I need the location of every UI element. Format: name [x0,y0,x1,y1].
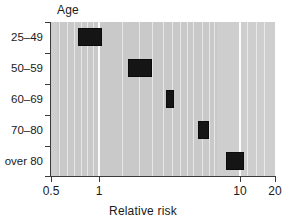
y-tick-label-50-59: 50–59 [0,62,43,74]
x-tick-label-10: 10 [220,184,260,198]
risk-box-25-49 [78,28,102,46]
x-tick-0point5 [51,176,52,182]
x-tick-label-20: 20 [255,184,289,198]
y-tick [45,22,51,23]
x-tick-10 [240,176,241,182]
risk-box-50-59 [128,59,152,77]
y-tick-label-over-80: over 80 [0,155,43,167]
y-tick [45,53,51,54]
gridline-minor [193,22,194,176]
gridline-minor [214,22,215,176]
x-tick-label-1: 1 [79,184,119,198]
y-axis-line [50,22,51,177]
x-axis-title: Relative risk [83,204,203,218]
risk-box-over-80 [226,152,244,170]
x-tick-1 [99,176,100,182]
gridline-minor [180,22,181,176]
relative-risk-by-age-chart: Age [0,0,289,224]
gridline-minor [139,22,140,176]
gridline-minor [264,22,265,176]
gridline-minor [122,22,123,176]
gridline-minor [59,22,60,176]
y-axis-title: Age [57,3,79,17]
panel-shade-band [51,22,57,176]
y-tick [45,84,51,85]
gridline-minor [256,22,257,176]
gridline-minor [247,22,248,176]
risk-box-60-69 [166,90,175,108]
x-tick-label-0point5: 0.5 [31,184,71,198]
gridline-minor [67,22,68,176]
risk-box-70-80 [198,121,209,139]
y-tick-label-60-69: 60–69 [0,93,43,105]
x-tick-20 [275,176,276,182]
y-tick-label-70-80: 70–80 [0,124,43,136]
gridline-minor [74,22,75,176]
gridline-minor [187,22,188,176]
gridline-minor [209,22,210,176]
gridline-minor [202,22,203,176]
y-tick [45,115,51,116]
y-tick-label-25-49: 25–49 [0,31,43,43]
gridline-minor [163,22,164,176]
y-tick [45,146,51,147]
x-axis-line [51,176,276,177]
plot-panel [51,22,275,176]
gridline-minor [152,22,153,176]
